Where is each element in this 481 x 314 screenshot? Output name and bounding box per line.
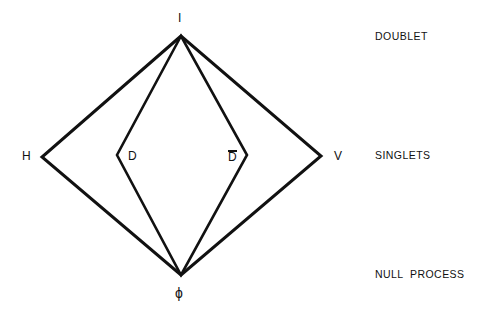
vertex-label-outer-right-V: V xyxy=(334,150,342,162)
overbar-icon xyxy=(228,150,237,152)
side-label-null-process: NULL PROCESS xyxy=(375,269,465,280)
vertex-label-inner-left-D: D xyxy=(128,150,137,162)
vertex-label-bottom-phi: ϕ xyxy=(175,286,183,300)
vertex-label-top-doublet-I: I xyxy=(178,12,182,24)
vertex-label-inner-right-Dbar: D xyxy=(228,150,237,163)
overbar-group: D xyxy=(228,150,237,163)
side-label-singlets: SINGLETS xyxy=(375,150,431,161)
inner-right-letter: D xyxy=(228,150,237,164)
side-label-doublet: DOUBLET xyxy=(375,31,428,42)
vertex-label-outer-left-H: H xyxy=(22,150,31,162)
